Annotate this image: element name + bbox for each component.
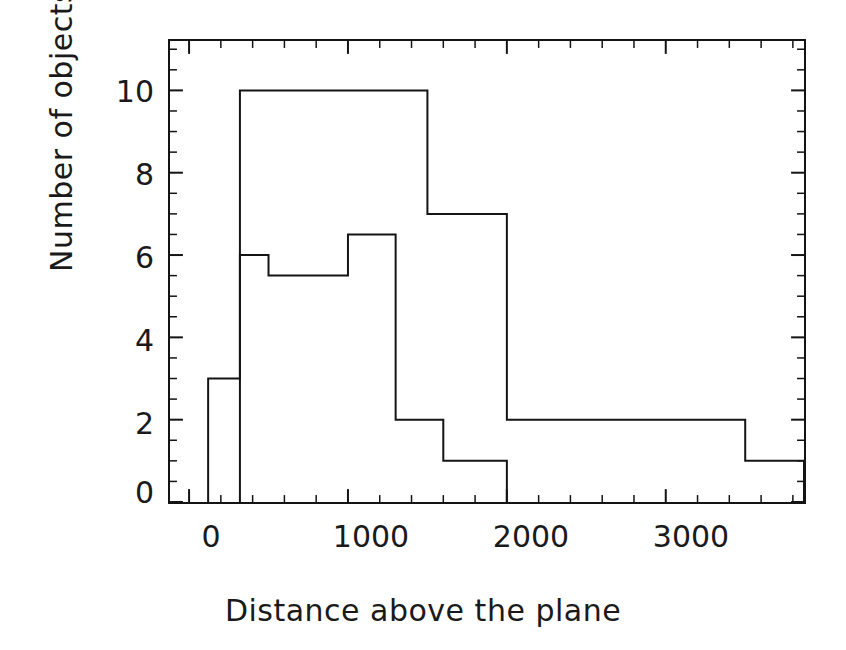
axis-ticks [170, 41, 804, 502]
plot-area [168, 39, 806, 504]
x-axis-title: Distance above the plane [0, 593, 846, 628]
plot-svg [170, 41, 804, 502]
y-tick-label-4: 4 [96, 326, 154, 356]
x-tick-label-0: 0 [201, 522, 220, 552]
histogram-tall-line [240, 90, 804, 502]
y-tick-label-0: 0 [96, 478, 154, 508]
x-tick-label-1000: 1000 [333, 522, 409, 552]
histogram-low-line [208, 234, 507, 502]
histogram-figure: Number of objects 10 8 6 4 2 0 0 1000 20… [0, 0, 846, 650]
y-tick-label-6: 6 [96, 243, 154, 273]
y-axis-title: Number of objects [44, 0, 79, 272]
y-tick-label-8: 8 [96, 160, 154, 190]
y-axis-tick-labels: 10 8 6 4 2 0 [96, 0, 154, 650]
x-tick-label-2000: 2000 [493, 522, 569, 552]
y-tick-label-2: 2 [96, 409, 154, 439]
y-tick-label-10: 10 [96, 77, 154, 107]
x-tick-label-3000: 3000 [653, 522, 729, 552]
